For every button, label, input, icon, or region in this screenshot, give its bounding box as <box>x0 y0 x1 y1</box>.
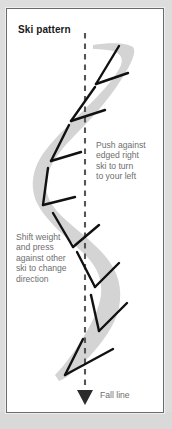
fall-line-arrowhead <box>77 390 93 405</box>
figure-frame: Ski pattern Push against edged right ski… <box>6 8 164 413</box>
figure-canvas: Ski pattern Push against edged right ski… <box>7 9 163 412</box>
track-shape <box>33 43 134 381</box>
callout-shift-weight-and-press: Shift weight and press against other ski… <box>16 232 88 284</box>
page-title: Ski pattern <box>18 24 71 35</box>
fall-line-label: Fall line <box>100 390 130 400</box>
ski-track-band <box>33 43 134 381</box>
callout-push-against-edged-right-ski: Push against edged right ski to turn to … <box>96 140 162 182</box>
ski-pattern-diagram <box>7 9 163 412</box>
